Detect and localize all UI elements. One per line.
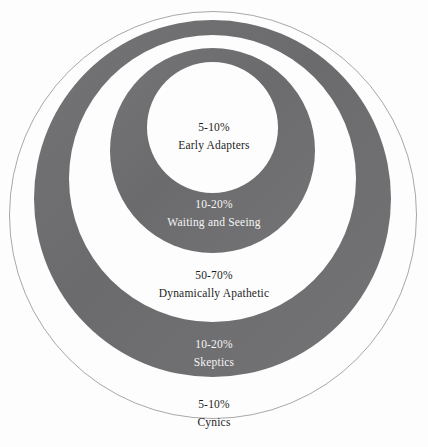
nested-circles-diagram: 5-10% Early Adapters 10-20% Waiting and … (0, 0, 428, 447)
circle-band-early-adapters (147, 62, 278, 193)
